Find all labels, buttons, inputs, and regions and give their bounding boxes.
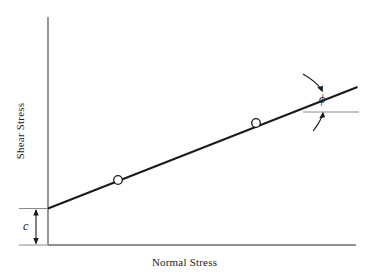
plot-area — [0, 0, 369, 277]
friction-angle-upper-leader-arrow — [303, 74, 323, 92]
y-axis-title: Shear Stress — [14, 81, 26, 181]
friction-angle-label: ϕ — [319, 92, 325, 107]
mohr-coulomb-failure-envelope-figure: Normal Stress Shear Stress c ϕ — [0, 0, 369, 277]
cohesion-label: c — [23, 219, 28, 234]
cohesion-dimension-arrow — [33, 209, 38, 245]
x-axis-title: Normal Stress — [0, 256, 369, 268]
failure-envelope-line — [48, 87, 358, 209]
friction-angle-lower-leader-arrow — [313, 112, 325, 131]
data-point-marker — [114, 176, 123, 185]
data-point-marker — [252, 119, 261, 128]
